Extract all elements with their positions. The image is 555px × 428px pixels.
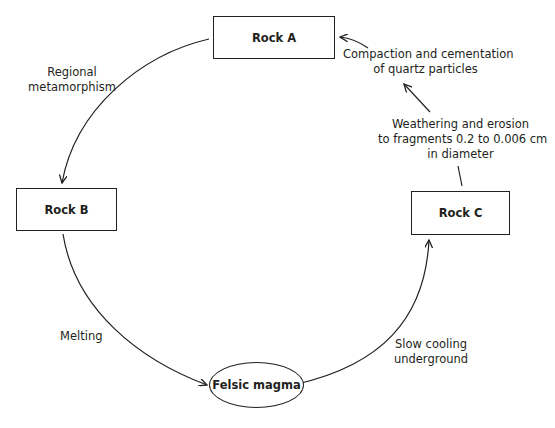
felsic-magma-ellipse: Felsic magma (209, 362, 304, 408)
melting-label: Melting (60, 329, 110, 344)
rock-a-box: Rock A (213, 16, 335, 59)
rock-c-label: Rock C (439, 206, 483, 220)
leader-rock-c-to-weathering (458, 166, 462, 186)
rock-b-label: Rock B (45, 203, 89, 217)
felsic-magma-label: Felsic magma (212, 378, 300, 392)
rock-c-box: Rock C (411, 191, 510, 235)
arrow-rock-a-to-rock-b (62, 39, 209, 183)
compaction-cementation-label: Compaction and cementation of quartz par… (343, 47, 508, 77)
slow-cooling-label: Slow cooling underground (386, 337, 476, 367)
arrow-rock-b-to-felsic-magma (63, 234, 207, 385)
arrow-weathering-to-compaction (404, 84, 430, 112)
rock-b-box: Rock B (16, 188, 117, 231)
regional-metamorphism-label: Regional metamorphism (27, 65, 117, 95)
weathering-erosion-label: Weathering and erosion to fragments 0.2 … (378, 117, 543, 162)
rock-a-label: Rock A (252, 31, 296, 45)
